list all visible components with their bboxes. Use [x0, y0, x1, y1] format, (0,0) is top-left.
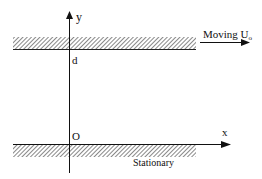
origin-label: O: [72, 130, 80, 142]
couette-flow-diagram: y x O d Moving Uo Stationary: [0, 0, 262, 179]
stationary-plate-label: Stationary: [133, 157, 174, 168]
gap-label: d: [72, 54, 78, 66]
velocity-arrow: [200, 39, 250, 46]
top-moving-plate: [13, 37, 196, 50]
moving-plate-label: Moving Uo: [203, 28, 253, 42]
y-axis-label: y: [76, 10, 82, 24]
x-axis-label: x: [222, 126, 228, 138]
x-axis-arrowhead-icon: [221, 141, 231, 148]
y-axis-arrowhead-icon: [66, 11, 73, 19]
bottom-stationary-plate: [13, 145, 196, 157]
